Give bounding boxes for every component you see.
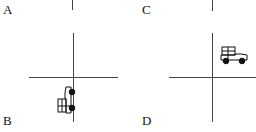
car-icon — [221, 47, 247, 64]
diagram-canvas — [0, 0, 256, 132]
car-icon — [58, 87, 75, 113]
axes-d — [169, 33, 256, 122]
